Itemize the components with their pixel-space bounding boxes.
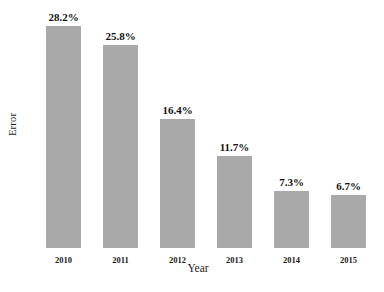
bar-chart: Error 28.2% 25.8% 16.4% 11.7% 7.3% 6.7% [0, 0, 384, 292]
bar-rect[interactable] [46, 26, 81, 248]
bar-group: 25.8% [103, 8, 138, 248]
bar-value-label: 11.7% [220, 142, 250, 153]
plot-area: 28.2% 25.8% 16.4% 11.7% 7.3% 6.7% [28, 8, 378, 248]
bar-group: 7.3% [274, 8, 309, 248]
bar-value-label: 28.2% [48, 12, 78, 23]
bar-value-label: 6.7% [336, 181, 361, 192]
bar-group: 16.4% [160, 8, 195, 248]
bar-value-label: 7.3% [279, 177, 304, 188]
bar-value-label: 25.8% [105, 31, 135, 42]
y-axis-title: Error [0, 0, 26, 248]
bar-rect[interactable] [103, 45, 138, 248]
bar-rect[interactable] [331, 195, 366, 248]
bar-rect[interactable] [217, 156, 252, 248]
x-axis-title-label: Year [175, 262, 208, 274]
bar-value-label: 16.4% [162, 105, 192, 116]
bar-group: 11.7% [217, 8, 252, 248]
bar-group: 6.7% [331, 8, 366, 248]
y-axis-title-label: Error [8, 112, 19, 135]
bar-group: 28.2% [46, 8, 81, 248]
bar-rect[interactable] [160, 119, 195, 248]
bar-rect[interactable] [274, 191, 309, 248]
x-axis-title: Year [0, 262, 384, 274]
